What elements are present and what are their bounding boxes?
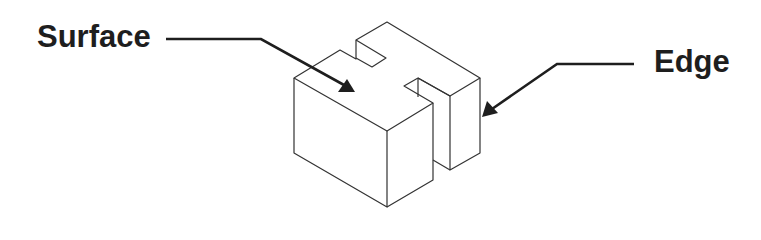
right-bar bbox=[450, 78, 480, 170]
edge-arrowhead-icon bbox=[482, 101, 498, 117]
surface-leader-line bbox=[166, 39, 344, 85]
edge-label: Edge bbox=[654, 46, 730, 77]
front-right-face bbox=[387, 103, 433, 207]
right-notch bbox=[418, 78, 450, 97]
edge-leader-line bbox=[492, 64, 634, 109]
edge-leader bbox=[482, 64, 634, 117]
top-face-outline bbox=[294, 22, 480, 131]
surface-label: Surface bbox=[37, 21, 151, 52]
back-notch bbox=[356, 40, 386, 67]
right-bar-inner bbox=[433, 160, 450, 170]
front-left-face bbox=[294, 78, 387, 207]
isometric-block bbox=[294, 22, 480, 207]
surface-leader bbox=[166, 39, 355, 92]
surface-arrowhead-icon bbox=[338, 79, 355, 92]
